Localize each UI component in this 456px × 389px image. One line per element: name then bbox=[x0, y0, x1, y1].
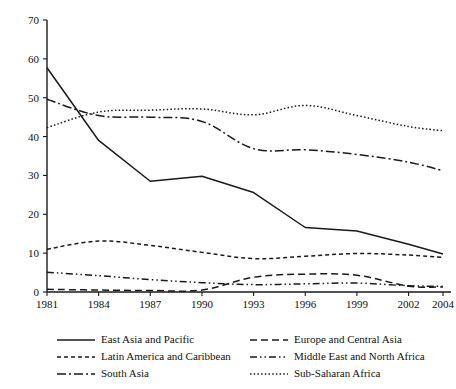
series-lines bbox=[47, 68, 443, 291]
y-axis: 010203040506070 bbox=[28, 14, 47, 298]
legend-label-middle-east-and-north-africa: Middle East and North Africa bbox=[294, 350, 425, 362]
y-tick-label: 70 bbox=[28, 14, 40, 26]
series-line-east-asia-and-pacific bbox=[47, 68, 443, 254]
legend-label-sub-saharan-africa: Sub-Saharan Africa bbox=[294, 367, 381, 379]
series-line-sub-saharan-africa bbox=[47, 105, 443, 130]
y-tick-label: 0 bbox=[34, 286, 40, 298]
y-tick-label: 10 bbox=[28, 247, 40, 259]
x-tick-label: 2002 bbox=[398, 298, 420, 310]
x-tick-label: 1981 bbox=[36, 298, 58, 310]
x-tick-label: 1996 bbox=[294, 298, 317, 310]
x-axis: 198119841987199019931996199920022004 bbox=[36, 292, 455, 310]
line-chart: 010203040506070 198119841987199019931996… bbox=[0, 0, 456, 389]
legend-label-europe-and-central-asia: Europe and Central Asia bbox=[294, 333, 402, 345]
legend-label-latin-america-and-caribbean: Latin America and Caribbean bbox=[101, 350, 231, 362]
legend-label-south-asia: South Asia bbox=[101, 367, 149, 379]
y-tick-label: 30 bbox=[28, 169, 40, 181]
legend-label-east-asia-and-pacific: East Asia and Pacific bbox=[101, 333, 194, 345]
x-tick-label: 2004 bbox=[432, 298, 455, 310]
x-tick-label: 1987 bbox=[139, 298, 162, 310]
y-tick-label: 50 bbox=[28, 92, 40, 104]
series-line-latin-america-and-caribbean bbox=[47, 241, 443, 259]
chart-container: 010203040506070 198119841987199019931996… bbox=[0, 0, 456, 389]
x-tick-label: 1999 bbox=[346, 298, 369, 310]
x-tick-label: 1990 bbox=[191, 298, 214, 310]
y-tick-label: 40 bbox=[28, 131, 40, 143]
x-tick-label: 1984 bbox=[88, 298, 111, 310]
chart-legend: East Asia and PacificEurope and Central … bbox=[57, 333, 425, 379]
series-line-south-asia bbox=[47, 99, 443, 171]
x-tick-label: 1993 bbox=[243, 298, 266, 310]
y-tick-label: 60 bbox=[28, 53, 40, 65]
y-tick-label: 20 bbox=[28, 208, 40, 220]
